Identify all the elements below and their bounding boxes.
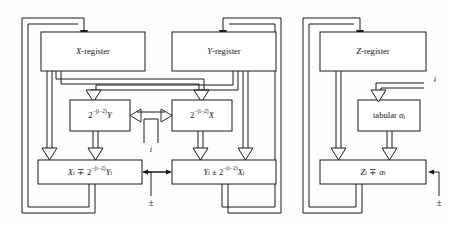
- iter-index-right-line-lower: [381, 88, 424, 92]
- y-register-label: Y-register: [207, 46, 241, 56]
- bypass-yreg-to-addery-arrowhead: [238, 148, 253, 160]
- bypass-xreg-to-adderx-arrowhead: [42, 148, 57, 160]
- bypass-zreg-to-adderz-arrowhead: [331, 148, 346, 160]
- adder-z-label: Zi ∓ αi: [361, 166, 386, 176]
- sign-right-label: ±: [436, 198, 441, 208]
- x-register-label: X-register: [75, 46, 110, 56]
- shift-exchange-arrowhead-right: [161, 109, 172, 122]
- sign-right-arrowhead: [428, 170, 434, 175]
- cross-link-yreg-to-shifty-inner: [96, 71, 233, 92]
- shift-x-box[interactable]: [172, 100, 232, 131]
- iteration-index-right-label: i: [434, 74, 437, 84]
- sign-arrowhead-adderx: [142, 170, 148, 175]
- tabular-alpha-label: tabular αi: [373, 110, 406, 120]
- cordic-block-diagram: i ± i ± X-register Y-register Z-register: [0, 0, 452, 227]
- shift-y-box[interactable]: [70, 100, 130, 131]
- tabular-to-adderz-arrowhead: [382, 148, 397, 160]
- adder-y-box[interactable]: [172, 160, 276, 184]
- sign-arrowhead-addery: [166, 170, 172, 175]
- cross-link-yreg-to-shifty-outer: [91, 71, 238, 92]
- shift-exchange-arrowhead-left: [130, 109, 141, 122]
- sign-center-label: ±: [148, 198, 153, 208]
- z-register-label: Z-register: [356, 46, 390, 56]
- shiftx-to-addery-arrowhead: [193, 148, 208, 160]
- cross-link-xreg-to-shiftx-outer: [56, 71, 204, 92]
- diagram-canvas: i ± i ± X-register Y-register Z-register: [0, 0, 452, 227]
- cross-link-xreg-to-shiftx-inner: [61, 71, 199, 92]
- iteration-index-center-label: i: [150, 144, 153, 154]
- sign-right-bus: [430, 172, 439, 196]
- shifty-to-adderx-arrowhead: [88, 148, 103, 160]
